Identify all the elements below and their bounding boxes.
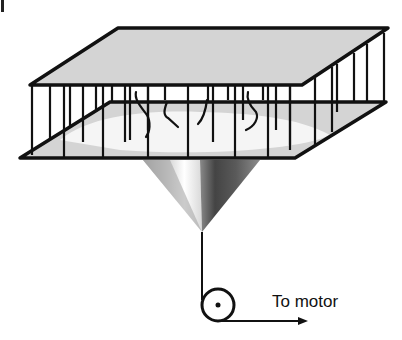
cone: [143, 160, 260, 232]
motor-label: To motor: [272, 292, 338, 312]
pulley: [202, 289, 234, 321]
pulley-axle-icon: [216, 303, 221, 308]
arena-diagram: [0, 0, 402, 340]
motor-arrow: [218, 317, 308, 325]
arrowhead-icon: [298, 317, 308, 325]
top-platform: [30, 28, 388, 85]
